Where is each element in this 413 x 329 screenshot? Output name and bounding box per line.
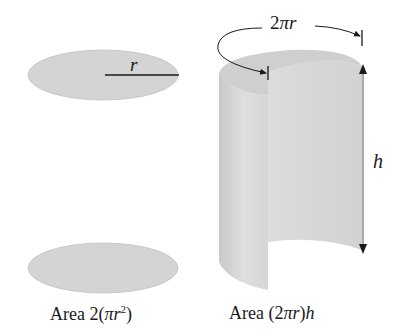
radius-label: r: [130, 54, 137, 76]
circumference-r: r: [289, 12, 296, 33]
lateral-caption-r: r: [293, 303, 300, 323]
circumference-label: 2πr: [270, 12, 296, 34]
circumference-two: 2: [270, 12, 280, 33]
lateral-area-caption: Area (2πr)h: [229, 303, 315, 324]
top-disk: [28, 50, 179, 100]
cylinder-surface-diagram: [0, 0, 413, 329]
circumference-pi: π: [280, 12, 290, 33]
lateral-caption-prefix: Area (2: [229, 303, 283, 323]
disk-area-caption: Area 2(πr2): [50, 303, 132, 325]
lateral-caption-h: h: [306, 303, 315, 323]
disk-caption-r: r: [114, 304, 121, 324]
cylinder-surface: [219, 50, 362, 290]
lateral-caption-pi: π: [283, 303, 292, 323]
bottom-disk: [28, 243, 178, 293]
height-label: h: [373, 150, 383, 173]
disk-caption-pi: π: [104, 304, 113, 324]
disk-caption-suffix: ): [126, 304, 132, 324]
disk-caption-prefix: Area 2(: [50, 304, 104, 324]
